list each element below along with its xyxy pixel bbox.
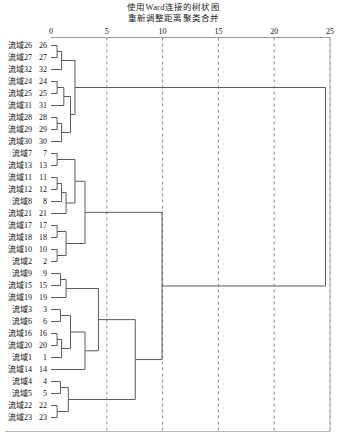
dendrogram-link-m18	[51, 274, 60, 286]
leaf-label-num-23: 23	[39, 413, 47, 422]
dendrogram-link-m31	[75, 88, 326, 286]
leaf-label-num-2: 2	[43, 257, 47, 266]
leaf-label-num-5: 5	[43, 389, 47, 398]
dendrogram-link-m10	[51, 178, 57, 190]
leaf-label-name-26: 流域26	[8, 40, 32, 50]
leaf-label-name-21: 流域21	[8, 208, 32, 218]
leaf-label-num-31: 31	[39, 101, 47, 110]
dendrogram-link-m26	[51, 382, 60, 394]
leaf-label-name-4: 流域4	[12, 376, 32, 386]
leaf-label-num-21: 21	[39, 209, 47, 218]
leaf-label-num-4: 4	[43, 377, 47, 386]
leaf-label-num-1: 1	[43, 353, 47, 362]
leaf-label-name-11: 流域11	[8, 172, 32, 182]
leaf-label-name-14: 流域14	[8, 364, 32, 374]
grid-lines	[107, 38, 330, 432]
plot-frame	[5, 38, 330, 432]
leaf-label-name-2: 流域2	[12, 256, 32, 266]
leaf-label-name-1: 流域1	[12, 352, 32, 362]
dendrogram-link-m28	[57, 388, 68, 412]
leaf-label-num-22: 22	[39, 401, 47, 410]
leaf-label-num-10: 10	[39, 245, 47, 254]
dendrogram-link-m3	[51, 82, 57, 94]
axis-tick-5: 5	[105, 27, 109, 36]
leaf-label-num-32: 32	[39, 65, 47, 74]
leaf-label-name-15: 流域15	[8, 280, 32, 290]
leaf-label-num-8: 8	[43, 197, 47, 206]
dendrogram-link-m1	[51, 46, 57, 58]
dendrogram-link-m22	[51, 340, 62, 358]
leaf-label-name-23: 流域23	[8, 412, 32, 422]
leaf-label-num-12: 12	[39, 185, 47, 194]
leaf-label-name-32: 流域32	[8, 64, 32, 74]
leaf-label-num-16: 16	[39, 329, 47, 338]
leaf-label-num-26: 26	[39, 41, 47, 50]
leaf-label-num-3: 3	[43, 305, 47, 314]
dendrogram-plot: 0510152025 流域2626流域2727流域3232流域2424流域252…	[0, 0, 347, 444]
leaf-label-name-7: 流域7	[12, 148, 32, 158]
leaf-label-name-29: 流域29	[8, 124, 32, 134]
dendrogram-link-m14	[51, 226, 57, 238]
dendrogram-link-m21	[51, 334, 57, 346]
leaf-label-name-13: 流域13	[8, 160, 32, 170]
leaf-label-num-30: 30	[39, 137, 47, 146]
leaf-label-num-14: 14	[39, 365, 47, 374]
dendrogram-link-m16	[57, 232, 66, 256]
axis-tick-0: 0	[49, 27, 53, 36]
leaf-label-num-19: 19	[39, 293, 47, 302]
axis-tick-10: 10	[159, 27, 167, 36]
leaf-label-name-28: 流域28	[8, 112, 32, 122]
leaf-label-name-6: 流域6	[12, 316, 32, 326]
axis-tick-20: 20	[270, 27, 278, 36]
leaf-label-name-25: 流域25	[8, 88, 32, 98]
dendrogram-link-m4	[51, 118, 57, 130]
leaf-label-name-18: 流域18	[8, 232, 32, 242]
leaf-label-num-13: 13	[39, 161, 47, 170]
dendrogram-links	[51, 46, 326, 418]
leaf-label-num-9: 9	[43, 269, 47, 278]
dendrogram-link-m11	[51, 184, 62, 202]
leaf-label-num-15: 15	[39, 281, 47, 290]
dendrogram-page: 使用Ward连接的树状图 重新调整距离聚类合并 0510152025 流域262…	[0, 0, 347, 444]
dendrogram-link-m5	[51, 124, 62, 142]
leaf-label-name-31: 流域31	[8, 100, 32, 110]
leaf-label-num-6: 6	[43, 317, 47, 326]
leaf-label-num-7: 7	[43, 149, 47, 158]
leaf-label-num-20: 20	[39, 341, 47, 350]
leaf-label-name-19: 流域19	[8, 292, 32, 302]
dendrogram-link-m30	[85, 212, 162, 359]
dendrogram-link-m12	[51, 193, 66, 214]
leaf-label-num-11: 11	[39, 173, 47, 182]
leaf-label-name-27: 流域27	[8, 52, 32, 62]
axis-tick-25: 25	[326, 27, 334, 36]
dendrogram-link-m2	[51, 52, 62, 70]
dendrogram-link-m17	[66, 181, 85, 243]
leaf-label-name-12: 流域12	[8, 184, 32, 194]
dendrogram-link-m9	[51, 154, 57, 166]
leaf-label-name-5: 流域5	[12, 388, 32, 398]
leaf-label-name-30: 流域30	[8, 136, 32, 146]
leaf-label-num-18: 18	[39, 233, 47, 242]
leaf-label-num-24: 24	[39, 77, 47, 86]
axis-tick-labels: 0510152025	[49, 27, 334, 36]
axis-tick-15: 15	[214, 27, 222, 36]
leaf-label-name-10: 流域10	[8, 244, 32, 254]
dendrogram-link-m20	[51, 310, 60, 322]
leaf-label-name-3: 流域3	[12, 304, 32, 314]
leaf-label-num-29: 29	[39, 125, 47, 134]
leaf-label-num-28: 28	[39, 113, 47, 122]
leaf-label-name-17: 流域17	[8, 220, 32, 230]
dendrogram-link-m15	[51, 250, 57, 262]
dendrogram-link-m24	[51, 332, 85, 370]
leaf-labels: 流域2626流域2727流域3232流域2424流域2525流域3131流域28…	[8, 40, 47, 422]
leaf-label-name-9: 流域9	[12, 268, 32, 278]
leaf-label-num-25: 25	[39, 89, 47, 98]
leaf-label-name-20: 流域20	[8, 340, 32, 350]
leaf-label-name-8: 流域8	[12, 196, 32, 206]
leaf-label-num-17: 17	[39, 221, 47, 230]
leaf-label-name-24: 流域24	[8, 76, 32, 86]
leaf-label-name-16: 流域16	[8, 328, 32, 338]
dendrogram-link-m7	[62, 97, 71, 133]
leaf-label-num-27: 27	[39, 53, 47, 62]
leaf-label-name-22: 流域22	[8, 400, 32, 410]
